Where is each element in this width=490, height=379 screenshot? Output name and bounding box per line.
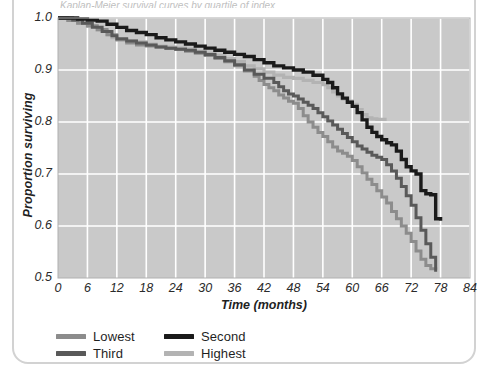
x-tick-48: 48 [278,281,308,295]
y-tick-0.8: 0.8 [18,114,52,128]
x-tick-6: 6 [72,281,102,295]
survival-chart: Proportion surviving Time (months) 06121… [0,0,490,379]
x-tick-36: 36 [220,281,250,295]
x-tick-42: 42 [249,281,279,295]
chart-legend: Lowest Second Third Highest [56,328,306,362]
legend-item-second[interactable]: Second [164,329,272,344]
y-tick-0.6: 0.6 [18,218,52,232]
y-tick-0.9: 0.9 [18,62,52,76]
legend-label-third: Third [93,346,123,361]
y-tick-0.5: 0.5 [18,270,52,284]
legend-item-third[interactable]: Third [56,346,164,361]
x-tick-78: 78 [426,281,456,295]
legend-swatch-highest [164,351,194,356]
x-tick-54: 54 [308,281,338,295]
legend-label-highest: Highest [201,346,246,361]
legend-item-lowest[interactable]: Lowest [56,329,164,344]
legend-label-second: Second [201,329,246,344]
y-tick-0.7: 0.7 [18,166,52,180]
x-tick-24: 24 [161,281,191,295]
legend-item-highest[interactable]: Highest [164,346,272,361]
x-tick-12: 12 [102,281,132,295]
plot-canvas [0,0,490,379]
y-tick-1.0: 1.0 [18,10,52,24]
legend-swatch-second [164,334,194,339]
x-axis-label: Time (months) [58,298,470,312]
legend-label-lowest: Lowest [93,329,135,344]
x-tick-60: 60 [337,281,367,295]
x-tick-30: 30 [190,281,220,295]
x-tick-18: 18 [131,281,161,295]
legend-swatch-lowest [56,334,86,339]
x-tick-66: 66 [367,281,397,295]
x-tick-84: 84 [455,281,485,295]
legend-swatch-third [56,351,86,356]
x-tick-72: 72 [396,281,426,295]
